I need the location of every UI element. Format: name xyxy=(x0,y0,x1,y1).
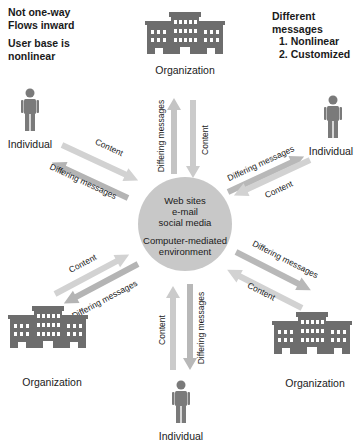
label-top-differing: Differing messages xyxy=(156,100,166,173)
node-upper-right-label: Individual xyxy=(309,145,353,157)
label-bottom-content: Content xyxy=(157,314,167,344)
arrow-bottom-differing xyxy=(183,284,197,370)
person-icon-upper-right xyxy=(324,96,342,139)
diagram-canvas: Differing messages Content Content Diffe… xyxy=(0,0,361,445)
person-icon-bottom xyxy=(172,381,190,424)
label-lower-right-content: Content xyxy=(246,280,278,303)
label-bottom-differing: Differing messages xyxy=(196,292,206,365)
hub-caption: environment xyxy=(159,246,212,257)
arrow-bottom-content xyxy=(166,286,180,370)
hub-line: social media xyxy=(159,217,213,228)
label-top-content: Content xyxy=(200,124,210,154)
arrow-top-content xyxy=(186,100,200,178)
building-icon-lower-right xyxy=(272,312,352,354)
label-upper-left-content: Content xyxy=(94,136,126,158)
node-lower-left-label: Organization xyxy=(22,376,82,388)
node-top-label: Organization xyxy=(155,64,215,76)
hub-line: e-mail xyxy=(172,206,198,217)
hub-line: Web sites xyxy=(164,195,206,206)
hub-caption: Computer-mediated xyxy=(143,235,227,246)
arrow-top-differing xyxy=(167,98,181,174)
node-bottom-label: Individual xyxy=(159,430,203,442)
node-lower-right-label: Organization xyxy=(285,377,345,389)
building-icon-top xyxy=(145,12,225,54)
node-upper-left-label: Individual xyxy=(8,138,52,150)
person-icon-upper-left xyxy=(21,89,39,132)
